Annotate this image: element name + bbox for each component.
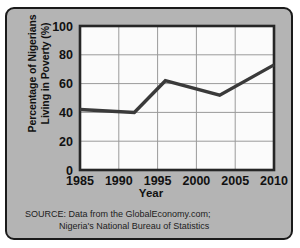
y-tick-20: 20 xyxy=(59,135,73,149)
x-tick-2000: 2000 xyxy=(182,174,210,188)
y-tick-40: 40 xyxy=(59,106,73,120)
plot-wrapper: Percentage of Nigerians Living in Povert… xyxy=(7,9,295,242)
source-line-2: Nigeria's National Bureau of Statistics xyxy=(25,220,283,232)
source-note: SOURCE: Data from the GlobalEconomy.com;… xyxy=(25,208,283,232)
x-axis-tick-labels: 198519901995200020052010 xyxy=(66,174,288,188)
y-tick-100: 100 xyxy=(52,20,73,34)
x-tick-1990: 1990 xyxy=(105,174,133,188)
chart-figure: Percentage of Nigerians Living in Povert… xyxy=(0,0,300,248)
x-axis-title: Year xyxy=(7,187,295,199)
x-tick-2010: 2010 xyxy=(260,174,288,188)
source-line-1: SOURCE: Data from the GlobalEconomy.com; xyxy=(25,209,210,219)
plot-background xyxy=(80,26,274,170)
y-tick-60: 60 xyxy=(59,77,73,91)
x-tick-1985: 1985 xyxy=(66,174,94,188)
y-tick-80: 80 xyxy=(59,48,73,62)
y-axis-tick-labels: 020406080100 xyxy=(52,20,73,178)
chart-panel: Percentage of Nigerians Living in Povert… xyxy=(5,7,293,240)
x-tick-1995: 1995 xyxy=(144,174,172,188)
x-tick-2005: 2005 xyxy=(221,174,249,188)
